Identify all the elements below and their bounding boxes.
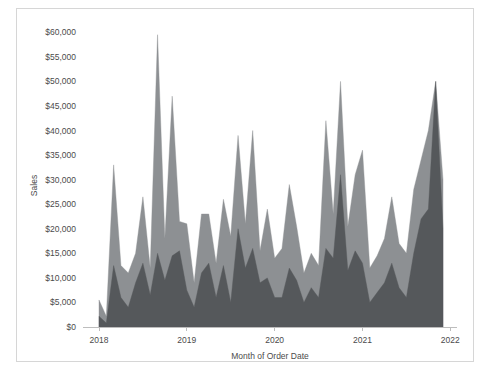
y-axis-tick-label: $35,000 bbox=[45, 150, 76, 160]
area-chart: $0$5,000$10,000$15,000$20,000$25,000$30,… bbox=[17, 9, 473, 361]
chart-container: $0$5,000$10,000$15,000$20,000$25,000$30,… bbox=[16, 8, 474, 362]
y-axis-tick-label: $5,000 bbox=[50, 297, 76, 307]
y-axis-tick-label: $20,000 bbox=[45, 224, 76, 234]
y-axis-tick-label: $60,000 bbox=[45, 27, 76, 37]
y-axis-tick-label: $15,000 bbox=[45, 248, 76, 258]
x-axis-tick-label: 2022 bbox=[441, 335, 460, 345]
x-axis-tick-label: 2021 bbox=[353, 335, 372, 345]
y-axis-tick-label: $50,000 bbox=[45, 76, 76, 86]
y-axis-tick-label: $25,000 bbox=[45, 199, 76, 209]
x-axis-tick-label: 2018 bbox=[90, 335, 109, 345]
y-axis-tick-label: $0 bbox=[67, 322, 77, 332]
y-axis-tick-label: $30,000 bbox=[45, 175, 76, 185]
x-axis-tick-label: 2019 bbox=[177, 335, 196, 345]
y-axis-title: Sales bbox=[29, 175, 39, 196]
y-axis-tick-label: $55,000 bbox=[45, 52, 76, 62]
y-axis-tick-label: $10,000 bbox=[45, 273, 76, 283]
x-axis-title: Month of Order Date bbox=[231, 351, 309, 361]
y-axis-tick-label: $45,000 bbox=[45, 101, 76, 111]
chart-plot-svg: $0$5,000$10,000$15,000$20,000$25,000$30,… bbox=[17, 9, 473, 361]
x-axis-tick-label: 2020 bbox=[265, 335, 284, 345]
y-axis-tick-label: $40,000 bbox=[45, 126, 76, 136]
